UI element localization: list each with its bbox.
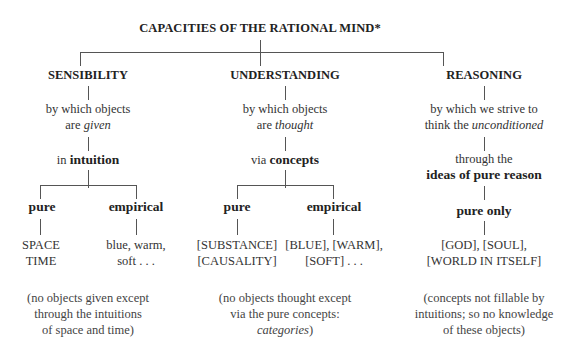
mode-keyword: intuition bbox=[70, 152, 120, 167]
connector-to-sensibility bbox=[80, 52, 81, 66]
capacity-description-line2: are given bbox=[65, 118, 110, 134]
branch-items-line2: [CAUSALITY] bbox=[197, 254, 276, 270]
diagram-title: CAPACITIES OF THE RATIONAL MIND* bbox=[139, 21, 381, 37]
emphasis-text: given bbox=[84, 118, 111, 132]
note-line2: via the pure concepts: bbox=[230, 306, 339, 322]
emphasis-text: categories bbox=[257, 323, 309, 337]
branch-items-line2: [SOFT] . . . bbox=[305, 254, 363, 270]
connector bbox=[484, 86, 485, 100]
note-line1: (concepts not fillable by bbox=[423, 290, 544, 306]
capacity-mode: in intuition bbox=[57, 152, 119, 169]
branch-items-line2: soft . . . bbox=[117, 254, 155, 270]
text: via bbox=[251, 153, 269, 167]
capacity-mode-line1: through the bbox=[455, 152, 512, 168]
connector bbox=[484, 186, 485, 200]
branch-bar bbox=[40, 185, 136, 186]
branch-items-line2: TIME bbox=[26, 254, 57, 270]
connector bbox=[88, 86, 89, 100]
connector bbox=[285, 137, 286, 151]
branch-label-empirical: empirical bbox=[109, 199, 164, 216]
branch-label-empirical: empirical bbox=[307, 199, 362, 216]
connector bbox=[333, 185, 334, 199]
branch-label-pure-only: pure only bbox=[457, 203, 512, 220]
connector bbox=[237, 185, 238, 199]
capacity-description-line1: by which objects bbox=[46, 102, 131, 118]
connector bbox=[333, 219, 334, 235]
text: ) bbox=[309, 323, 313, 337]
connector bbox=[88, 137, 89, 151]
branch-items-line1: [BLUE], [WARM], bbox=[285, 238, 383, 254]
connector bbox=[136, 185, 137, 199]
capacity-heading: REASONING bbox=[446, 68, 522, 84]
capacity-heading: SENSIBILITY bbox=[48, 68, 128, 84]
note-line1: (no objects given except bbox=[27, 290, 149, 306]
connector bbox=[285, 86, 286, 100]
connector-to-understanding bbox=[260, 52, 261, 66]
text: are bbox=[257, 118, 275, 132]
note-line2: intuitions; so no knowledge bbox=[415, 306, 554, 322]
branch-items-line2: [WORLD IN ITSELF] bbox=[427, 254, 542, 270]
branch-label-pure: pure bbox=[29, 199, 56, 216]
capacity-description-line1: by which we strive to bbox=[430, 102, 538, 118]
branch-bar bbox=[237, 185, 333, 186]
text: think the bbox=[425, 118, 472, 132]
emphasis-text: thought bbox=[275, 118, 313, 132]
note-line3: of space and time) bbox=[42, 322, 134, 338]
note-line1: (no objects thought except bbox=[219, 290, 351, 306]
emphasis-text: unconditioned bbox=[472, 118, 544, 132]
capacity-description-line1: by which objects bbox=[243, 102, 328, 118]
connector-top-bar bbox=[80, 52, 443, 53]
note-line3: categories) bbox=[257, 322, 313, 338]
branch-label-pure: pure bbox=[224, 199, 251, 216]
branch-items-line1: blue, warm, bbox=[106, 238, 165, 254]
connector bbox=[40, 219, 41, 235]
connector bbox=[484, 221, 485, 235]
mode-keyword: concepts bbox=[269, 152, 319, 167]
text: are bbox=[65, 118, 83, 132]
branch-items-line1: SPACE bbox=[22, 238, 60, 254]
note-line3: of these objects) bbox=[443, 322, 525, 338]
connector bbox=[484, 137, 485, 151]
capacity-mode: via concepts bbox=[251, 152, 319, 169]
connector bbox=[136, 219, 137, 235]
connector-to-reasoning bbox=[443, 52, 444, 66]
capacity-description-line2: are thought bbox=[257, 118, 314, 134]
capacity-heading: UNDERSTANDING bbox=[230, 68, 340, 84]
branch-items-line1: [GOD], [SOUL], bbox=[441, 238, 527, 254]
branch-items-line1: [SUBSTANCE] bbox=[197, 238, 277, 254]
note-line2: through the intuitions bbox=[34, 306, 142, 322]
text: in bbox=[57, 153, 70, 167]
connector bbox=[40, 185, 41, 199]
capacity-description-line2: think the unconditioned bbox=[425, 118, 544, 134]
connector-title-stem bbox=[260, 40, 261, 52]
mode-keyword: ideas of pure reason bbox=[426, 167, 541, 184]
connector bbox=[237, 219, 238, 235]
